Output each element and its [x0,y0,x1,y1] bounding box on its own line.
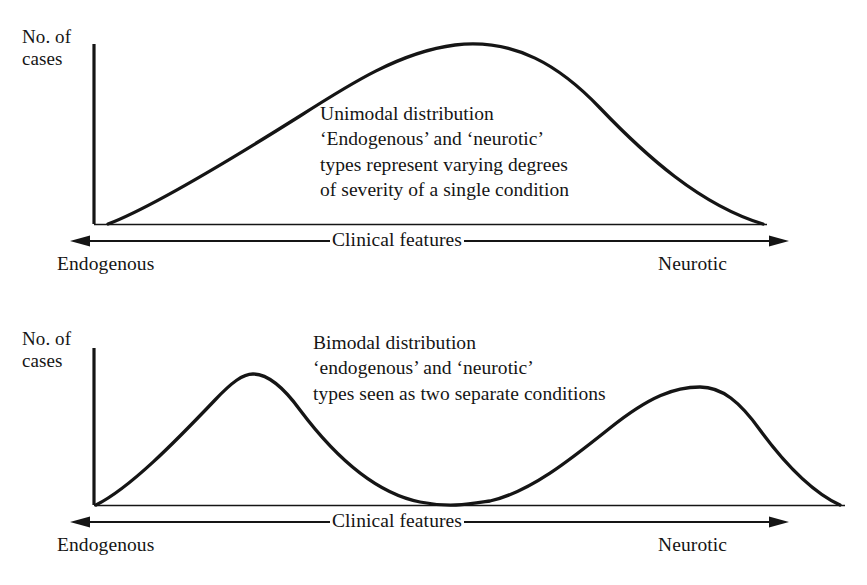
bimodal-y-axis-label-line1: No. of [22,328,71,349]
panel-bimodal: No. of cases Bimodal distribution ‘endog… [0,292,867,585]
bimodal-x-axis-left-label: Endogenous [57,534,154,556]
bimodal-x-axis-right-label: Neurotic [658,534,727,556]
bimodal-y-axis-label: No. of cases [22,328,71,372]
unimodal-annotation-line-1: Unimodal distribution [320,101,569,126]
unimodal-annotation-line-4: of severity of a single condition [320,177,569,202]
bimodal-annotation-line-2: ‘endogenous’ and ‘neurotic’ [313,355,606,380]
unimodal-x-axis-left-label: Endogenous [57,253,154,275]
panel-unimodal: No. of cases Unimodal distribution ‘Endo… [0,0,867,292]
bimodal-annotation-line-3: types seen as two separate conditions [313,381,606,406]
unimodal-annotation-line-2: ‘Endogenous’ and ‘neurotic’ [320,126,569,151]
unimodal-annotation: Unimodal distribution ‘Endogenous’ and ‘… [320,101,569,202]
bimodal-x-axis-caption: Clinical features [330,510,464,532]
unimodal-x-axis-caption: Clinical features [330,229,464,251]
figure-root: No. of cases Unimodal distribution ‘Endo… [0,0,867,585]
unimodal-annotation-line-3: types represent varying degrees [320,152,569,177]
unimodal-x-axis-right-label: Neurotic [658,253,727,275]
bimodal-annotation-line-1: Bimodal distribution [313,330,606,355]
bimodal-y-axis-label-line2: cases [22,350,71,372]
unimodal-y-axis-label-line2: cases [22,48,71,70]
bimodal-annotation: Bimodal distribution ‘endogenous’ and ‘n… [313,330,606,406]
unimodal-y-axis-label: No. of cases [22,26,71,70]
unimodal-y-axis-label-line1: No. of [22,26,71,47]
